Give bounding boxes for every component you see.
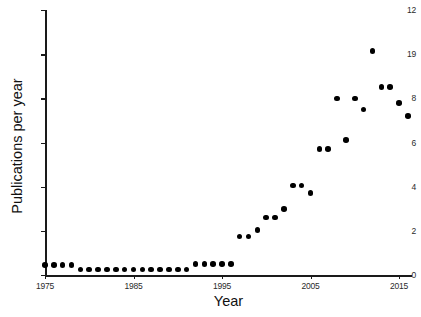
data-point <box>51 262 57 268</box>
y-tick-label-4: 4 <box>382 182 416 192</box>
data-point <box>343 137 349 143</box>
y-tick-label-6: 6 <box>382 138 416 148</box>
y-tick-4 <box>41 187 45 188</box>
data-point <box>281 206 287 212</box>
x-tick-1985 <box>134 275 135 279</box>
data-point <box>387 84 393 90</box>
data-point <box>263 215 269 221</box>
y-axis-title: Publications per year <box>9 41 25 251</box>
x-tick-2015 <box>399 275 400 279</box>
data-point <box>405 113 411 119</box>
data-point <box>122 267 128 273</box>
data-point <box>272 215 278 221</box>
data-point <box>166 267 172 273</box>
y-tick-6 <box>41 143 45 144</box>
data-point <box>95 267 101 273</box>
data-point <box>69 262 75 268</box>
data-point <box>317 146 323 152</box>
data-point <box>202 261 208 267</box>
data-point <box>290 183 296 189</box>
data-point <box>193 261 199 267</box>
x-tick-2005 <box>311 275 312 279</box>
data-point <box>113 267 119 273</box>
data-point <box>42 262 48 268</box>
y-tick-10 <box>41 54 45 55</box>
y-axis-line <box>45 10 47 276</box>
data-point <box>86 267 92 273</box>
x-tick-label-2005: 2005 <box>289 281 333 291</box>
data-point <box>184 267 190 273</box>
y-tick-label-10: 19 <box>382 49 416 59</box>
x-tick-label-1985: 1985 <box>112 281 156 291</box>
x-tick-label-2015: 2015 <box>377 281 421 291</box>
y-tick-2 <box>41 231 45 232</box>
data-point <box>334 96 340 102</box>
data-point <box>237 234 243 240</box>
y-tick-12 <box>41 10 45 11</box>
data-point <box>210 261 216 267</box>
x-tick-1975 <box>45 275 46 279</box>
data-point <box>78 267 84 273</box>
data-point <box>60 262 66 268</box>
x-tick-1995 <box>222 275 223 279</box>
data-point <box>228 261 234 267</box>
data-point <box>140 267 146 273</box>
x-axis-title: Year <box>45 293 412 309</box>
data-point <box>255 227 261 233</box>
data-point <box>299 183 305 189</box>
data-point <box>379 84 385 90</box>
data-point <box>325 146 331 152</box>
data-point <box>219 261 225 267</box>
data-point <box>370 48 376 54</box>
data-point <box>131 267 137 273</box>
x-axis-line <box>45 275 412 277</box>
x-tick-label-1975: 1975 <box>23 281 67 291</box>
data-point <box>157 267 163 273</box>
data-point <box>246 234 252 240</box>
data-point <box>396 100 402 106</box>
data-point <box>361 107 367 113</box>
data-point <box>352 96 358 102</box>
y-tick-8 <box>41 98 45 99</box>
data-point <box>104 267 110 273</box>
data-point <box>308 190 314 196</box>
y-tick-label-2: 2 <box>382 226 416 236</box>
x-tick-label-1995: 1995 <box>200 281 244 291</box>
y-tick-label-12: 12 <box>382 5 416 15</box>
data-point <box>175 267 181 273</box>
data-point <box>148 267 154 273</box>
